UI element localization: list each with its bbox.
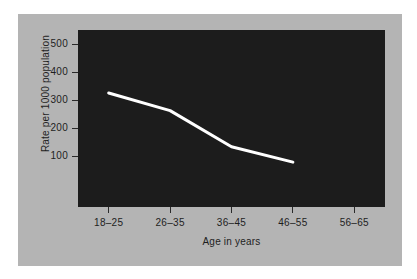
x-axis-tick: 46–55 (263, 207, 323, 228)
figure-root: 500 400 300 200 100 Rate per 1000 popula… (0, 0, 417, 279)
y-axis-tick: 300 (50, 94, 78, 106)
y-axis-tick-label: 500 (50, 38, 68, 50)
y-axis-tick: 400 (50, 66, 78, 78)
chart-card: 500 400 300 200 100 Rate per 1000 popula… (18, 14, 402, 266)
x-axis-tick-mark (231, 207, 232, 213)
x-axis-tick-mark (354, 207, 355, 213)
x-axis-tick-mark (170, 207, 171, 213)
x-axis-tick-mark (292, 207, 293, 213)
x-axis-tick: 18–25 (79, 207, 139, 228)
y-axis-tick: 200 (50, 122, 78, 134)
x-axis-tick-label: 56–65 (324, 217, 384, 228)
x-axis-tick: 36–45 (202, 207, 262, 228)
y-axis-tick-label: 200 (50, 122, 68, 134)
y-axis-tick-label: 300 (50, 94, 68, 106)
y-axis-tick: 500 (50, 38, 78, 50)
x-axis-tick-label: 46–55 (263, 217, 323, 228)
x-axis-tick: 26–35 (140, 207, 200, 228)
x-axis-tick-label: 26–35 (140, 217, 200, 228)
x-axis-tick: 56–65 (324, 207, 384, 228)
data-series-line (78, 30, 385, 207)
x-axis-tick-label: 36–45 (202, 217, 262, 228)
y-axis-tick: 100 (50, 150, 78, 162)
x-axis-tick-label: 18–25 (79, 217, 139, 228)
plot-area (78, 30, 385, 207)
y-axis-tick-label: 400 (50, 66, 68, 78)
x-axis-tick-mark (108, 207, 109, 213)
y-axis-tick-label: 100 (50, 150, 68, 162)
y-axis-title: Rate per 1000 population (40, 9, 51, 179)
x-axis-title: Age in years (78, 236, 385, 247)
